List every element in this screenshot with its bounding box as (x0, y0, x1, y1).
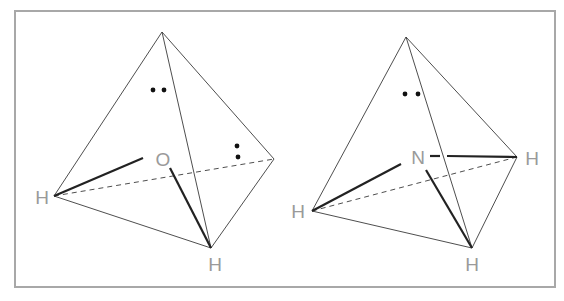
hydrogen-label: H (525, 148, 539, 169)
ammonia-tetrahedron: N H H H (291, 37, 539, 275)
bond-n-h-right (447, 156, 517, 157)
hydrogen-label: H (208, 254, 222, 275)
oxygen-label: O (156, 149, 171, 170)
bond-n-h-bottom (426, 170, 472, 248)
edge-bottom-right (472, 157, 517, 248)
lone-pair-dot (151, 88, 156, 93)
lone-pair-dot (236, 155, 241, 160)
lone-pair-dot (403, 92, 408, 97)
figure-frame (15, 11, 555, 287)
hydrogen-label: H (465, 254, 479, 275)
hydrogen-label: H (291, 201, 305, 222)
lone-pair-dot (162, 88, 167, 93)
lone-pair-dot (416, 92, 421, 97)
edge-apex-bottom (406, 37, 472, 248)
edge-left-bottom (312, 211, 472, 248)
hydrogen-label: H (35, 187, 49, 208)
water-tetrahedron: O H H (35, 32, 274, 275)
edge-apex-right (406, 37, 517, 157)
molecular-geometry-figure: O H H N H H H (0, 0, 564, 301)
edge-apex-left (312, 37, 406, 211)
bond-o-h-left (54, 158, 143, 196)
lone-pair-dot (235, 144, 240, 149)
edge-apex-right (162, 32, 274, 159)
edge-apex-left (54, 32, 162, 196)
edge-apex-bottom (162, 32, 211, 248)
bond-n-h-left (312, 164, 401, 211)
edge-bottom-right (211, 159, 274, 248)
nitrogen-label: N (411, 147, 425, 168)
